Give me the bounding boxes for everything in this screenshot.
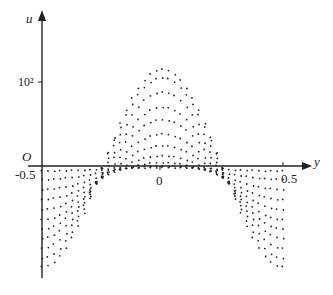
- data-point: [78, 215, 80, 217]
- data-point: [90, 174, 92, 176]
- data-point: [48, 247, 50, 249]
- data-point: [77, 195, 79, 197]
- data-point: [276, 265, 278, 267]
- data-point: [204, 162, 206, 164]
- data-point: [239, 201, 241, 203]
- data-point: [251, 206, 253, 208]
- data-point: [263, 196, 265, 198]
- data-point: [246, 170, 248, 172]
- data-point: [216, 153, 218, 155]
- data-point: [83, 186, 85, 188]
- data-point: [252, 192, 254, 194]
- data-point: [186, 142, 188, 144]
- data-point: [120, 127, 122, 129]
- data-point: [125, 158, 127, 160]
- data-point: [223, 176, 225, 178]
- data-point: [65, 217, 67, 219]
- data-point: [222, 174, 224, 176]
- data-point: [144, 114, 146, 116]
- data-point: [71, 224, 73, 226]
- data-point: [60, 222, 62, 224]
- data-point: [59, 170, 61, 172]
- chart-plot-area: [0, 0, 333, 295]
- data-point: [149, 162, 151, 164]
- data-point: [78, 176, 80, 178]
- data-point: [150, 95, 152, 97]
- data-point: [66, 233, 68, 235]
- data-point: [71, 192, 73, 194]
- data-point: [167, 78, 169, 80]
- data-point: [126, 124, 128, 126]
- data-point: [204, 142, 206, 144]
- data-point: [84, 202, 86, 204]
- data-point: [89, 179, 91, 181]
- data-point: [240, 195, 242, 197]
- data-point: [173, 95, 175, 97]
- data-point: [168, 134, 170, 136]
- data-point: [264, 248, 266, 250]
- data-point: [78, 206, 80, 208]
- data-point: [204, 126, 206, 128]
- data-point: [53, 207, 55, 209]
- data-point: [275, 178, 277, 180]
- data-point: [72, 219, 74, 221]
- data-point: [209, 151, 211, 153]
- data-point: [125, 141, 127, 143]
- data-point: [161, 68, 163, 70]
- data-point: [47, 236, 49, 238]
- data-point: [113, 156, 115, 158]
- data-point: [240, 187, 242, 189]
- data-point: [247, 190, 249, 192]
- data-point: [275, 227, 277, 229]
- data-point: [264, 222, 266, 224]
- data-point: [90, 191, 92, 193]
- data-point: [246, 201, 248, 203]
- data-point: [137, 151, 139, 153]
- data-point: [221, 168, 223, 170]
- data-point: [240, 205, 242, 207]
- data-point: [264, 230, 266, 232]
- data-point: [89, 184, 91, 186]
- data-point: [215, 170, 217, 172]
- data-point: [209, 163, 211, 165]
- data-point: [174, 163, 176, 165]
- data-point: [235, 190, 237, 192]
- data-point: [156, 93, 158, 95]
- data-point: [83, 191, 85, 193]
- data-point: [65, 203, 67, 205]
- data-point: [120, 163, 122, 165]
- data-point: [77, 220, 79, 222]
- data-point: [168, 92, 170, 94]
- data-point: [84, 196, 86, 198]
- data-point: [131, 167, 133, 169]
- data-point: [155, 78, 157, 80]
- data-point: [276, 237, 278, 239]
- data-point: [198, 109, 200, 111]
- data-point: [77, 183, 79, 185]
- data-point: [161, 91, 163, 93]
- data-point: [233, 183, 235, 185]
- data-point: [234, 180, 236, 182]
- data-point: [174, 136, 176, 138]
- data-point: [216, 168, 218, 170]
- data-point: [234, 195, 236, 197]
- data-point: [138, 159, 140, 161]
- data-point: [179, 138, 181, 140]
- data-point: [90, 196, 92, 198]
- data-point: [89, 189, 91, 191]
- data-point: [228, 181, 230, 183]
- data-point: [101, 168, 103, 170]
- data-point: [257, 240, 259, 242]
- data-point: [197, 158, 199, 160]
- data-point: [277, 199, 279, 201]
- data-point: [198, 168, 200, 170]
- data-point: [271, 254, 273, 256]
- data-point: [143, 125, 145, 127]
- data-point: [245, 175, 247, 177]
- data-point: [276, 189, 278, 191]
- data-point: [270, 178, 272, 180]
- data-point: [216, 162, 218, 164]
- data-point: [217, 158, 219, 160]
- data-point: [210, 145, 212, 147]
- data-point: [47, 265, 49, 267]
